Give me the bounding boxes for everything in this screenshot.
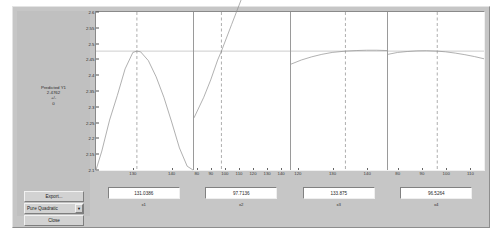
x-axis-tick-label: 140: [278, 171, 285, 176]
x-axis-label-x4: x4: [388, 202, 486, 207]
predicted-response-error: 0: [17, 101, 90, 106]
x-axis-tick-label: 100: [221, 171, 228, 176]
prediction-plot-area: 2.62.552.52.452.42.352.32.252.22.152.1 1…: [95, 11, 485, 171]
x-axis-tick-label: 80: [194, 171, 199, 176]
x-axis-tick-label: 120: [249, 171, 256, 176]
x-axis-tick-label: 130: [264, 171, 271, 176]
y-axis-tick-label: 2.3: [88, 104, 94, 109]
x-axis-tick-mark: [422, 168, 423, 171]
prediction-panel-x2[interactable]: 8090100110120130140: [193, 12, 290, 170]
export-button[interactable]: Export...: [24, 191, 84, 202]
y-axis-tick-label: 2.45: [86, 57, 95, 62]
x-axis-tick-mark: [281, 168, 282, 171]
x-axis-tick-label: 110: [236, 171, 243, 176]
y-axis-tick-label: 2.15: [86, 152, 95, 157]
y-axis-tick-label: 2.5: [88, 41, 94, 46]
x-axis-tick-label: 90: [208, 171, 213, 176]
x-axis-tick-label: 130: [129, 171, 136, 176]
x-axis-label-x1: x1: [95, 202, 193, 207]
x-axis-tick-label: 90: [420, 171, 425, 176]
x-axis-tick-mark: [446, 168, 447, 171]
x-axis-tick-mark: [367, 168, 368, 171]
prediction-curve: [96, 51, 193, 170]
export-button-label: Export...: [45, 194, 62, 199]
x-axis-tick-label: 100: [443, 171, 450, 176]
y-axis-tick-label: 2.6: [88, 10, 94, 15]
x-axis-tick-label: 80: [395, 171, 400, 176]
x-axis-label-x3: x3: [290, 202, 388, 207]
x-axis-tick-mark: [225, 168, 226, 171]
y-axis-tick-label: 2.25: [86, 120, 95, 125]
x-axis-tick-mark: [267, 168, 268, 171]
prediction-panel-x3[interactable]: 120130140: [290, 12, 387, 170]
x-axis-tick-label: 140: [168, 171, 175, 176]
x-value-input-row: 131.0386x197.7136x2133.875x396.5264x4: [95, 187, 485, 217]
rstool-window: Predicted Y1 2.4762 +/- 0 Export... Pure…: [12, 6, 490, 228]
x-value-input-x1[interactable]: 131.0386: [108, 187, 180, 199]
x-axis-tick-mark: [197, 168, 198, 171]
x-axis-label-x2: x2: [193, 202, 291, 207]
y-axis-tick-label: 2.2: [88, 136, 94, 141]
x-axis-tick-mark: [398, 168, 399, 171]
x-value-group-x4: 96.5264x4: [388, 187, 486, 207]
x-axis-tick-label: 120: [294, 171, 301, 176]
y-axis-tick-label: 2.55: [86, 25, 95, 30]
y-axis-tick-label: 2.4: [88, 73, 94, 78]
chevron-down-icon[interactable]: ▼: [75, 204, 83, 213]
prediction-curve: [291, 50, 387, 64]
close-button-label: Close: [48, 218, 60, 223]
x-axis-tick-mark: [470, 168, 471, 171]
x-axis-tick-mark: [211, 168, 212, 171]
x-axis-tick-mark: [298, 168, 299, 171]
close-button[interactable]: Close: [24, 215, 84, 226]
predicted-response-readout: Predicted Y1 2.4762 +/- 0: [17, 85, 90, 106]
control-panel: Predicted Y1 2.4762 +/- 0 Export... Pure…: [17, 11, 90, 216]
x-axis-tick-label: 140: [364, 171, 371, 176]
prediction-panel-x4[interactable]: 8090100110: [387, 12, 484, 170]
prediction-panel-x1[interactable]: 130140: [96, 12, 193, 170]
x-value-group-x2: 97.7136x2: [193, 187, 291, 207]
x-axis-tick-mark: [133, 168, 134, 171]
x-value-group-x1: 131.0386x1: [95, 187, 193, 207]
prediction-curve: [388, 51, 484, 59]
x-value-group-x3: 133.875x3: [290, 187, 388, 207]
model-type-value: Pure Quadratic: [25, 206, 75, 211]
y-axis-tick-label: 2.1: [88, 168, 94, 173]
x-value-input-x3[interactable]: 133.875: [303, 187, 375, 199]
x-axis-tick-mark: [333, 168, 334, 171]
y-axis-tick-label: 2.35: [86, 89, 95, 94]
x-axis-tick-mark: [172, 168, 173, 171]
x-value-input-x2[interactable]: 97.7136: [205, 187, 277, 199]
x-axis-tick-mark: [253, 168, 254, 171]
x-axis-tick-mark: [239, 168, 240, 171]
x-axis-tick-label: 130: [329, 171, 336, 176]
x-axis-tick-label: 110: [467, 171, 474, 176]
prediction-curve: [194, 0, 290, 118]
model-type-dropdown[interactable]: Pure Quadratic ▼: [24, 203, 84, 214]
x-value-input-x4[interactable]: 96.5264: [400, 187, 472, 199]
